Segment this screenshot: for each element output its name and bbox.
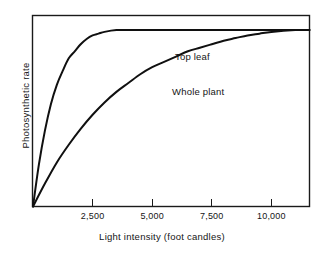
x-axis-title: Light intensity (foot candles) xyxy=(0,231,324,242)
curve-label-whole-plant: Whole plant xyxy=(172,86,224,97)
curve-label-top-leaf: Top leaf xyxy=(175,51,210,62)
x-tick-label-5000: 5,000 xyxy=(140,211,164,221)
chart-figure: Photosynthetic rate Light intensity (foo… xyxy=(0,0,324,257)
x-tick-label-10000: 10,000 xyxy=(257,211,286,221)
x-tick-label-2500: 2,500 xyxy=(81,211,105,221)
plot-frame xyxy=(33,16,310,207)
y-axis-title: Photosynthetic rate xyxy=(20,36,31,176)
x-tick-label-7500: 7,500 xyxy=(200,211,224,221)
